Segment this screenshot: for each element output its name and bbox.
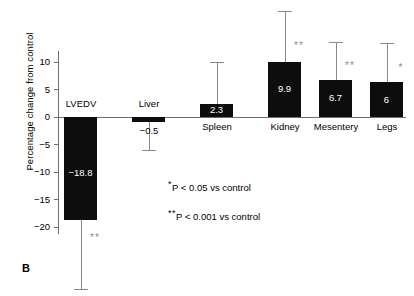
y-tick-minus-5 bbox=[54, 144, 58, 145]
y-tick-label-minus-20: −20 bbox=[18, 221, 50, 232]
significance-marker-mesentery: ** bbox=[340, 60, 360, 71]
y-tick-10 bbox=[54, 62, 58, 63]
y-tick-label-10: 10 bbox=[18, 56, 50, 67]
bar-label-mesentery: Mesentery bbox=[304, 121, 368, 132]
bar-liver bbox=[132, 117, 165, 122]
error-bar-line-spleen bbox=[217, 62, 218, 104]
significance-marker-kidney: ** bbox=[289, 40, 309, 51]
significance-note-single-text: P < 0.05 vs control bbox=[172, 182, 251, 193]
bar-value-liver: −0.5 bbox=[128, 125, 170, 136]
bar-label-lvedv: LVEDV bbox=[56, 98, 106, 109]
bar-label-spleen: Spleen bbox=[192, 121, 242, 132]
significance-marker-lvedv: ** bbox=[85, 232, 105, 243]
significance-note-double-marker: ** bbox=[168, 208, 176, 218]
error-bar-line-legs bbox=[387, 43, 388, 82]
y-tick-label-minus-15: −15 bbox=[18, 194, 50, 205]
error-bar-cap-mesentery bbox=[329, 42, 343, 43]
error-bar-line-lvedv bbox=[81, 220, 82, 290]
y-tick-label-minus-10: −10 bbox=[18, 166, 50, 177]
error-bar-cap-legs bbox=[380, 43, 394, 44]
bar-value-lvedv: −18.8 bbox=[62, 167, 99, 178]
bar-value-kidney: 9.9 bbox=[266, 83, 303, 94]
error-bar-line-mesentery bbox=[336, 42, 337, 80]
error-bar-line-kidney bbox=[285, 11, 286, 63]
significance-note-double: **P < 0.001 vs control bbox=[168, 208, 260, 222]
panel-label: B bbox=[22, 262, 30, 274]
bar-value-spleen: 2.3 bbox=[198, 104, 235, 115]
error-bar-cap-kidney bbox=[278, 11, 292, 12]
y-tick-0 bbox=[54, 117, 58, 118]
error-bar-cap-lvedv bbox=[74, 289, 88, 290]
bar-label-liver: Liver bbox=[124, 98, 174, 109]
y-tick-label-5: 5 bbox=[18, 84, 50, 95]
bar-value-legs: 6 bbox=[368, 94, 405, 105]
y-tick-minus-15 bbox=[54, 199, 58, 200]
bar-label-kidney: Kidney bbox=[260, 121, 310, 132]
y-tick-label-minus-5: −5 bbox=[18, 139, 50, 150]
error-bar-cap-liver bbox=[142, 150, 156, 151]
y-tick-minus-20 bbox=[54, 227, 58, 228]
error-bar-cap-spleen bbox=[210, 62, 224, 63]
y-axis-line bbox=[58, 51, 59, 234]
significance-marker-legs: * bbox=[391, 62, 411, 73]
significance-note-double-text: P < 0.001 vs control bbox=[176, 211, 260, 222]
chart-figure: Percentage change from control 10 5 0 −5… bbox=[0, 0, 414, 296]
y-tick-5 bbox=[54, 89, 58, 90]
y-tick-label-0: 0 bbox=[18, 111, 50, 122]
bar-label-legs: Legs bbox=[362, 121, 412, 132]
significance-note-single: *P < 0.05 vs control bbox=[168, 179, 251, 193]
x-axis-zero-line bbox=[58, 117, 406, 118]
bar-value-mesentery: 6.7 bbox=[317, 92, 354, 103]
y-tick-minus-10 bbox=[54, 172, 58, 173]
